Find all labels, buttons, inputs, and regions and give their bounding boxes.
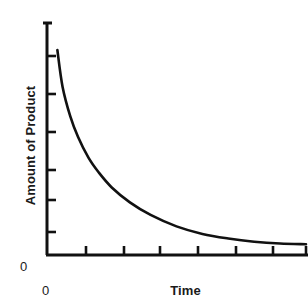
plot-area	[0, 0, 308, 302]
x-axis-label: Time	[128, 283, 243, 298]
y-axis-origin-label: 0	[20, 259, 27, 274]
x-axis-origin-label: 0	[42, 283, 49, 298]
y-axis-label: Amount of Product	[23, 56, 38, 236]
chart-figure: Amount of Product Time 0 0	[0, 0, 308, 302]
decay-curve	[57, 50, 306, 244]
